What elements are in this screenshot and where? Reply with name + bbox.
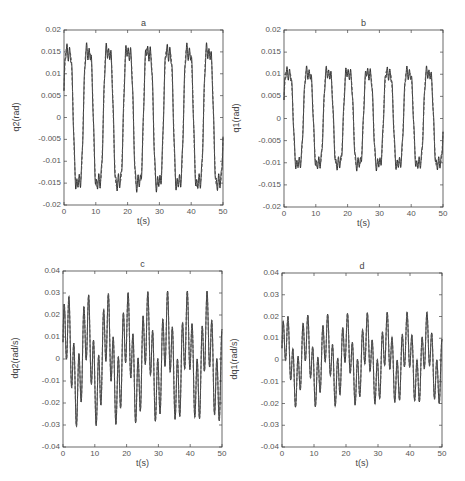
y-tick-label: -0.03	[239, 420, 279, 429]
y-tick-label: -0.02	[239, 399, 279, 408]
y-tick-label: 0.02	[239, 312, 279, 321]
y-tick-label: 0.03	[239, 290, 279, 299]
y-tick-label: -0.01	[239, 377, 279, 386]
subplot-title: d	[282, 261, 442, 271]
y-axis-label: dq1(rad/s)	[229, 319, 239, 399]
subplot-d: 01020304050-0.04-0.03-0.02-0.0100.010.02…	[0, 0, 465, 481]
x-tick-label: 20	[336, 449, 356, 458]
y-tick-label: 0	[239, 355, 279, 364]
series-actual-line	[282, 312, 442, 407]
x-tick-label: 30	[368, 449, 388, 458]
y-tick-label: -0.04	[239, 442, 279, 451]
x-axis-label: t(s)	[282, 458, 442, 468]
x-tick-label: 40	[400, 449, 420, 458]
plot-area	[0, 0, 465, 481]
x-tick-label: 10	[304, 449, 324, 458]
y-tick-label: 0.01	[239, 333, 279, 342]
x-tick-label: 50	[432, 449, 452, 458]
y-tick-label: 0.04	[239, 268, 279, 277]
